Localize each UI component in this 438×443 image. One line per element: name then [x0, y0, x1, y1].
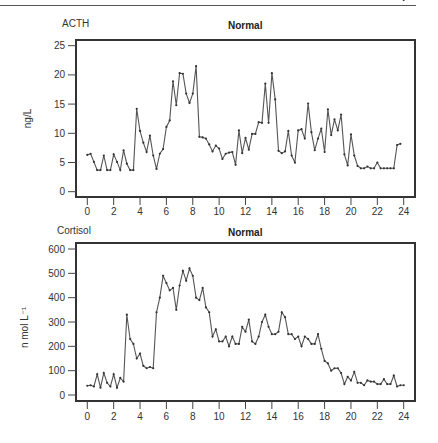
acth-x-tick-label: 16: [293, 206, 305, 217]
cortisol-y-tick-label: 300: [48, 317, 65, 328]
acth-data-point: [389, 167, 391, 169]
acth-x-tick-label: 6: [164, 206, 170, 217]
cortisol-data-point: [386, 383, 388, 385]
cortisol-data-point: [93, 385, 95, 387]
cortisol-data-point: [169, 289, 171, 291]
cortisol-data-point: [307, 338, 309, 340]
acth-data-point: [86, 154, 88, 156]
acth-data-point: [244, 137, 246, 139]
acth-data-point: [119, 169, 121, 171]
cortisol-data-point: [103, 372, 105, 374]
cortisol-data-point: [205, 306, 207, 308]
acth-data-point: [304, 137, 306, 139]
cortisol-data-point: [360, 382, 362, 384]
cortisol-data-point: [340, 372, 342, 374]
acth-x-tick-label: 10: [214, 206, 226, 217]
acth-data-point: [175, 104, 177, 106]
cortisol-data-point: [399, 384, 401, 386]
acth-data-point: [373, 167, 375, 169]
cortisol-data-point: [393, 374, 395, 376]
acth-data-point: [132, 169, 134, 171]
acth-series-line: [87, 66, 400, 170]
acth-data-point: [218, 147, 220, 149]
acth-data-point: [284, 150, 286, 152]
acth-x-tick-label: 12: [240, 206, 252, 217]
cortisol-data-point: [248, 318, 250, 320]
acth-data-point: [109, 169, 111, 171]
cortisol-data-point: [146, 367, 148, 369]
cortisol-data-point: [235, 343, 237, 345]
acth-x-tick-label: 20: [345, 206, 357, 217]
acth-data-point: [320, 128, 322, 130]
acth-x-tick-label: 0: [85, 206, 91, 217]
cortisol-data-point: [337, 367, 339, 369]
cortisol-y-tick-label: 100: [48, 365, 65, 376]
cortisol-data-point: [172, 287, 174, 289]
acth-data-point: [314, 149, 316, 151]
cortisol-data-point: [238, 343, 240, 345]
acth-data-point: [271, 72, 273, 74]
cortisol-x-tick-label: 20: [345, 411, 357, 422]
cortisol-data-point: [198, 299, 200, 301]
cortisol-data-point: [188, 267, 190, 269]
cortisol-data-point: [271, 333, 273, 335]
acth-data-point: [139, 130, 141, 132]
cortisol-y-tick-label: 0: [59, 390, 65, 401]
acth-data-point: [274, 98, 276, 100]
cortisol-data-point: [380, 383, 382, 385]
cortisol-data-point: [159, 297, 161, 299]
acth-data-point: [366, 165, 368, 167]
acth-data-point: [370, 167, 372, 169]
cortisol-data-point: [119, 377, 121, 379]
acth-data-point: [343, 153, 345, 155]
acth-data-point: [169, 119, 171, 121]
acth-data-point: [383, 167, 385, 169]
cortisol-data-point: [317, 333, 319, 335]
acth-y-tick-label: 5: [59, 157, 65, 168]
acth-data-point: [281, 152, 283, 154]
cortisol-data-point: [300, 345, 302, 347]
acth-data-point: [356, 165, 358, 167]
acth-data-point: [327, 108, 329, 110]
cortisol-data-point: [356, 382, 358, 384]
acth-data-point: [330, 134, 332, 136]
cortisol-series-line: [87, 269, 403, 388]
acth-data-point: [188, 102, 190, 104]
acth-data-point: [248, 149, 250, 151]
cortisol-x-tick-label: 2: [111, 411, 117, 422]
acth-data-point: [126, 163, 128, 165]
cortisol-data-point: [267, 326, 269, 328]
cortisol-data-point: [116, 387, 118, 389]
cortisol-data-point: [389, 383, 391, 385]
acth-data-point: [192, 92, 194, 94]
acth-data-point: [396, 144, 398, 146]
cortisol-data-point: [287, 333, 289, 335]
acth-data-point: [228, 151, 230, 153]
cortisol-x-tick-label: 14: [266, 411, 278, 422]
cortisol-data-point: [221, 340, 223, 342]
cortisol-data-point: [175, 309, 177, 311]
acth-y-tick-label: 0: [59, 186, 65, 197]
acth-data-point: [310, 131, 312, 133]
acth-data-point: [251, 133, 253, 135]
acth-data-point: [185, 92, 187, 94]
cortisol-data-point: [244, 331, 246, 333]
cortisol-data-point: [192, 275, 194, 277]
cortisol-data-point: [353, 371, 355, 373]
acth-x-tick-label: 22: [372, 206, 384, 217]
acth-data-point: [146, 151, 148, 153]
acth-data-point: [317, 137, 319, 139]
cortisol-data-point: [195, 297, 197, 299]
cortisol-data-point: [225, 336, 227, 338]
cortisol-x-tick-label: 16: [293, 411, 305, 422]
cortisol-y-tick-label: 600: [48, 244, 65, 255]
acth-data-point: [386, 167, 388, 169]
acth-data-point: [300, 128, 302, 130]
cortisol-data-point: [258, 336, 260, 338]
cortisol-x-tick-label: 6: [164, 411, 170, 422]
acth-data-point: [113, 153, 115, 155]
cortisol-data-point: [333, 367, 335, 369]
acth-data-point: [162, 148, 164, 150]
acth-data-point: [129, 169, 131, 171]
cortisol-x-tick-label: 10: [214, 411, 226, 422]
